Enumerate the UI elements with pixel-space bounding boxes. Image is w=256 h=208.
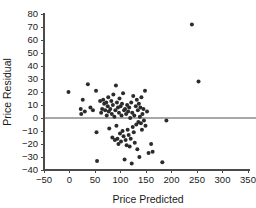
data-point bbox=[124, 138, 128, 142]
y-tick-label: 20 bbox=[27, 86, 38, 97]
data-point bbox=[103, 108, 107, 112]
y-tick-labels: −40−30−20−1001020304050607080 bbox=[22, 8, 38, 175]
data-point bbox=[94, 89, 98, 93]
data-point bbox=[95, 159, 99, 163]
data-point bbox=[149, 142, 153, 146]
data-point bbox=[145, 110, 149, 114]
data-point bbox=[197, 80, 201, 84]
data-points-layer bbox=[66, 22, 200, 165]
data-point bbox=[121, 129, 125, 133]
data-point bbox=[79, 107, 83, 111]
data-point bbox=[79, 112, 83, 116]
x-tick-label: 150 bbox=[138, 174, 154, 185]
y-tick-label: 70 bbox=[27, 21, 38, 32]
data-point bbox=[131, 94, 135, 98]
x-tick-label: 100 bbox=[113, 174, 129, 185]
x-tick-label: 200 bbox=[164, 174, 180, 185]
data-point bbox=[135, 98, 139, 102]
y-tick-label: 60 bbox=[27, 34, 38, 45]
data-point bbox=[66, 90, 70, 94]
data-point bbox=[164, 119, 168, 123]
data-point bbox=[129, 100, 133, 104]
data-point bbox=[143, 89, 147, 93]
data-point bbox=[128, 116, 132, 120]
data-point bbox=[132, 130, 136, 134]
data-point bbox=[114, 124, 118, 128]
data-point bbox=[160, 160, 164, 164]
data-point bbox=[135, 147, 139, 151]
data-point bbox=[86, 82, 90, 86]
y-tick-label: 40 bbox=[27, 60, 38, 71]
data-point bbox=[140, 128, 144, 132]
data-point bbox=[107, 126, 111, 130]
data-point bbox=[129, 137, 133, 141]
data-point bbox=[133, 141, 137, 145]
data-point bbox=[112, 115, 116, 119]
scatter-chart: −50050100150200250300350 −40−30−20−10010… bbox=[0, 0, 256, 208]
data-point bbox=[142, 119, 146, 123]
data-point bbox=[147, 151, 151, 155]
x-axis-title: Price Predicted bbox=[112, 193, 183, 205]
y-tick-label: −30 bbox=[22, 151, 38, 162]
data-point bbox=[122, 134, 126, 138]
data-point bbox=[127, 133, 131, 137]
data-point bbox=[101, 98, 105, 102]
data-point bbox=[120, 113, 124, 117]
data-point bbox=[121, 91, 125, 95]
data-point bbox=[106, 95, 110, 99]
y-axis-title: Price Residual bbox=[1, 58, 13, 126]
y-tick-label: −10 bbox=[22, 125, 38, 136]
data-point bbox=[137, 155, 141, 159]
data-point bbox=[143, 124, 147, 128]
data-point bbox=[114, 84, 118, 88]
x-tick-label: 350 bbox=[240, 174, 256, 185]
x-tick-label: 50 bbox=[90, 174, 101, 185]
data-point bbox=[95, 130, 99, 134]
y-tick-label: 50 bbox=[27, 47, 38, 58]
data-point bbox=[109, 99, 113, 103]
data-point bbox=[123, 158, 127, 162]
y-tick-label: 10 bbox=[27, 99, 38, 110]
data-point bbox=[131, 125, 135, 129]
y-tick-label: 80 bbox=[27, 8, 38, 19]
x-tick-label: 250 bbox=[189, 174, 205, 185]
data-point bbox=[99, 111, 103, 115]
data-point bbox=[81, 98, 85, 102]
data-point bbox=[91, 108, 95, 112]
data-point bbox=[126, 110, 130, 114]
data-point bbox=[119, 139, 123, 143]
axes-layer bbox=[44, 13, 250, 170]
data-point bbox=[126, 128, 130, 132]
data-point bbox=[83, 110, 87, 114]
y-tick-label: 30 bbox=[27, 73, 38, 84]
data-point bbox=[127, 106, 131, 110]
plot-svg: −50050100150200250300350 −40−30−20−10010… bbox=[0, 0, 256, 208]
y-tick-label: −20 bbox=[22, 138, 38, 149]
data-point bbox=[141, 107, 145, 111]
data-point bbox=[123, 107, 127, 111]
y-tick-label: 0 bbox=[33, 112, 38, 123]
data-point bbox=[128, 145, 132, 149]
data-point bbox=[111, 103, 115, 107]
data-point bbox=[140, 112, 144, 116]
y-tick-label: −40 bbox=[22, 164, 38, 175]
x-tick-label: 0 bbox=[67, 174, 72, 185]
data-point bbox=[139, 95, 143, 99]
data-point bbox=[130, 162, 134, 166]
x-tick-label: 300 bbox=[215, 174, 231, 185]
data-point bbox=[137, 102, 141, 106]
data-point bbox=[151, 150, 155, 154]
tick-marks-layer bbox=[41, 14, 248, 173]
x-tick-labels: −50050100150200250300350 bbox=[36, 174, 256, 185]
data-point bbox=[134, 104, 138, 108]
data-point bbox=[117, 97, 121, 101]
data-point bbox=[190, 22, 194, 26]
data-point bbox=[104, 100, 108, 104]
x-tick-label: −50 bbox=[36, 174, 52, 185]
data-point bbox=[115, 100, 119, 104]
data-point bbox=[115, 137, 119, 141]
data-point bbox=[120, 102, 124, 106]
data-point bbox=[108, 107, 112, 111]
data-point bbox=[139, 121, 143, 125]
data-point bbox=[111, 93, 115, 97]
